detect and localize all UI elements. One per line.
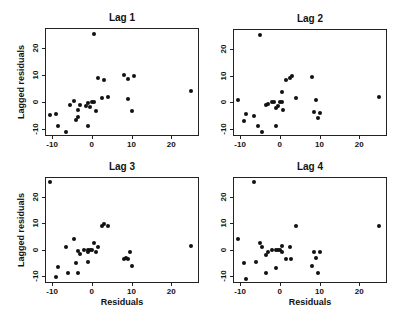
y-tick-label: -10	[31, 270, 40, 282]
x-tick-label: -10	[234, 140, 246, 149]
data-point	[132, 74, 136, 78]
x-tick-mark	[320, 136, 321, 139]
data-point	[126, 97, 130, 101]
data-point	[318, 111, 322, 115]
y-tick-mark	[230, 276, 233, 277]
panel-title: Lag 3	[45, 161, 199, 172]
data-point	[189, 244, 193, 248]
x-tick-label: 20	[167, 140, 176, 149]
data-point	[96, 245, 100, 249]
data-point	[64, 245, 68, 249]
x-tick-mark	[359, 136, 360, 139]
data-point	[92, 241, 96, 245]
y-tick-mark	[230, 76, 233, 77]
data-point	[312, 110, 316, 114]
data-point	[106, 224, 110, 228]
data-point	[289, 257, 293, 261]
data-point	[318, 250, 322, 254]
data-point	[314, 256, 318, 260]
y-tick-label: 0	[219, 247, 228, 251]
data-point	[78, 103, 82, 107]
data-point	[128, 250, 132, 254]
data-point	[314, 98, 318, 102]
x-tick-label: 20	[167, 287, 176, 296]
data-point	[377, 224, 381, 228]
y-tick-label: 20	[31, 192, 40, 201]
y-tick-label: 0	[31, 247, 40, 251]
data-point	[76, 108, 80, 112]
data-point	[74, 261, 78, 265]
plot-frame	[45, 28, 199, 136]
data-point	[68, 103, 72, 107]
data-point	[284, 257, 288, 261]
data-point	[310, 75, 314, 79]
y-tick-label: 10	[31, 219, 40, 228]
x-tick-mark	[359, 283, 360, 286]
y-tick-mark	[42, 75, 45, 76]
panel-title: Lag 4	[233, 161, 387, 172]
y-tick-label: -10	[219, 270, 228, 282]
x-tick-label: -10	[234, 287, 246, 296]
x-axis-label: Residuals	[233, 297, 387, 307]
x-tick-label: 10	[127, 287, 136, 296]
data-point	[122, 73, 126, 77]
y-tick-label: 10	[219, 219, 228, 228]
x-tick-label: 0	[278, 287, 282, 296]
data-point	[78, 252, 82, 256]
x-tick-label: 0	[278, 140, 282, 149]
data-point	[294, 224, 298, 228]
data-point	[244, 277, 248, 281]
data-point	[92, 100, 96, 104]
y-tick-label: 20	[31, 44, 40, 53]
data-point	[252, 114, 256, 118]
y-tick-mark	[42, 223, 45, 224]
y-tick-mark	[230, 197, 233, 198]
x-tick-mark	[132, 136, 133, 139]
y-tick-label: 10	[31, 71, 40, 80]
y-tick-label: 10	[219, 71, 228, 80]
data-point	[76, 115, 80, 119]
y-tick-label: 20	[219, 192, 228, 201]
data-point	[312, 250, 316, 254]
data-point	[96, 76, 100, 80]
data-point	[56, 265, 60, 269]
data-point	[316, 116, 320, 120]
data-point	[280, 244, 284, 248]
data-point	[64, 130, 68, 134]
data-point	[294, 96, 298, 100]
x-tick-mark	[52, 283, 53, 286]
x-tick-label: -10	[46, 287, 58, 296]
x-axis-label: Residuals	[45, 297, 199, 307]
data-point	[126, 257, 130, 261]
x-tick-mark	[280, 283, 281, 286]
panel-title: Lag 2	[233, 13, 387, 24]
y-tick-mark	[230, 102, 233, 103]
data-point	[86, 260, 90, 264]
y-tick-mark	[42, 102, 45, 103]
x-tick-label: 10	[315, 140, 324, 149]
y-tick-mark	[230, 129, 233, 130]
y-tick-mark	[42, 129, 45, 130]
y-tick-label: 0	[219, 100, 228, 104]
data-point	[260, 130, 264, 134]
data-point	[236, 98, 240, 102]
data-point	[126, 77, 130, 81]
x-tick-label: 20	[355, 287, 364, 296]
y-tick-mark	[42, 197, 45, 198]
x-tick-label: -10	[46, 140, 58, 149]
data-point	[274, 266, 278, 270]
data-point	[254, 260, 258, 264]
plot-frame	[45, 177, 199, 283]
y-tick-mark	[42, 48, 45, 49]
data-point	[288, 245, 292, 249]
data-point	[100, 96, 104, 100]
y-tick-mark	[230, 223, 233, 224]
data-point	[290, 74, 294, 78]
data-point	[106, 95, 110, 99]
plot-frame	[233, 29, 387, 136]
data-point	[72, 237, 76, 241]
x-tick-mark	[171, 283, 172, 286]
data-point	[377, 95, 381, 99]
x-tick-mark	[92, 136, 93, 139]
x-tick-label: 0	[90, 140, 94, 149]
